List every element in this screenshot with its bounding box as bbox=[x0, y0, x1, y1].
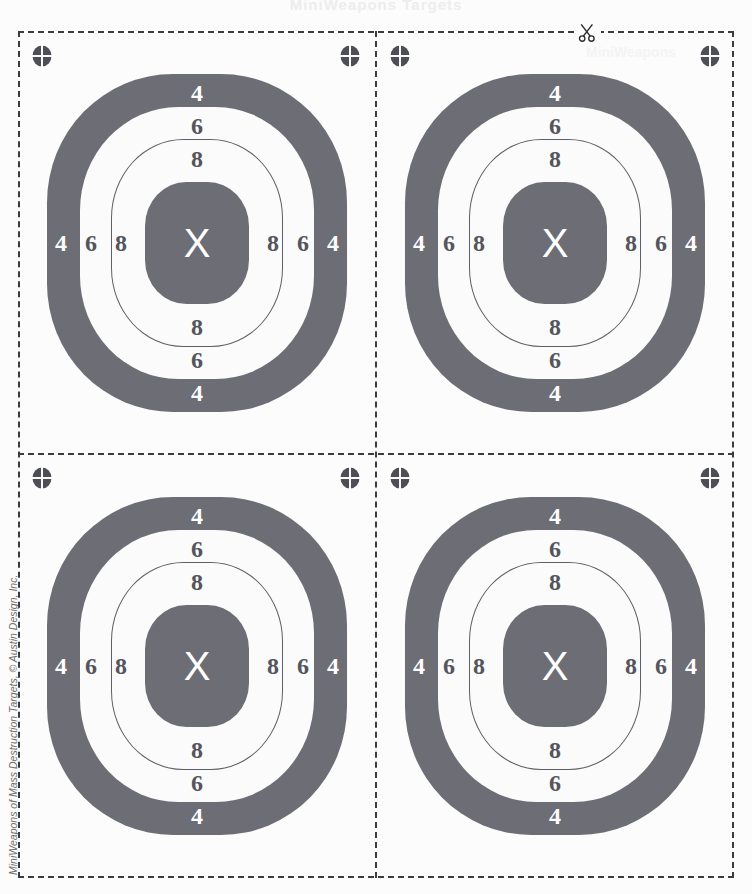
page-title: MiniWeapons Targets bbox=[0, 0, 752, 13]
score-label-top-6: 6 bbox=[186, 114, 208, 138]
target-center-label: X bbox=[184, 646, 211, 686]
score-label-top-8: 8 bbox=[186, 147, 208, 171]
score-label-top-8: 8 bbox=[544, 570, 566, 594]
target-center-label: X bbox=[542, 223, 569, 263]
score-label-top-6: 6 bbox=[544, 537, 566, 561]
score-label-right-6: 6 bbox=[650, 231, 672, 255]
score-label-bottom-6: 6 bbox=[186, 348, 208, 372]
target-center-label: X bbox=[542, 646, 569, 686]
score-label-bottom-8: 8 bbox=[544, 738, 566, 762]
score-label-top-4: 4 bbox=[544, 504, 566, 528]
score-label-top-6: 6 bbox=[186, 537, 208, 561]
score-label-left-4: 4 bbox=[50, 231, 72, 255]
score-label-right-4: 4 bbox=[680, 654, 702, 678]
bullseye-target[interactable]: X 4 6 8 8 6 4 4 6 8 8 6 4 bbox=[405, 74, 705, 412]
target-panel-top-right: X 4 6 8 8 6 4 4 6 8 8 6 4 bbox=[376, 31, 734, 454]
score-label-right-8: 8 bbox=[262, 231, 284, 255]
score-label-right-8: 8 bbox=[620, 654, 642, 678]
target-panel-bottom-right: X 4 6 8 8 6 4 4 6 8 8 6 4 bbox=[376, 454, 734, 877]
score-label-left-6: 6 bbox=[80, 231, 102, 255]
score-label-left-6: 6 bbox=[80, 654, 102, 678]
score-label-bottom-4: 4 bbox=[544, 381, 566, 405]
score-label-bottom-8: 8 bbox=[186, 315, 208, 339]
target-panel-top-left: X 4 6 8 8 6 4 4 6 8 8 6 4 bbox=[18, 31, 376, 454]
score-label-bottom-4: 4 bbox=[544, 804, 566, 828]
score-label-bottom-8: 8 bbox=[186, 738, 208, 762]
bullseye-target[interactable]: X 4 6 8 8 6 4 4 6 8 8 6 4 bbox=[47, 497, 347, 835]
score-label-bottom-6: 6 bbox=[186, 771, 208, 795]
score-label-top-8: 8 bbox=[544, 147, 566, 171]
score-label-left-4: 4 bbox=[408, 231, 430, 255]
score-label-left-8: 8 bbox=[110, 231, 132, 255]
score-label-top-4: 4 bbox=[186, 81, 208, 105]
score-label-right-6: 6 bbox=[650, 654, 672, 678]
score-label-bottom-6: 6 bbox=[544, 771, 566, 795]
score-label-left-6: 6 bbox=[438, 654, 460, 678]
score-label-right-4: 4 bbox=[322, 231, 344, 255]
score-label-left-8: 8 bbox=[468, 654, 490, 678]
score-label-right-4: 4 bbox=[680, 231, 702, 255]
score-label-left-8: 8 bbox=[110, 654, 132, 678]
score-label-left-8: 8 bbox=[468, 231, 490, 255]
score-label-left-6: 6 bbox=[438, 231, 460, 255]
score-label-right-8: 8 bbox=[620, 231, 642, 255]
score-label-bottom-8: 8 bbox=[544, 315, 566, 339]
score-label-bottom-6: 6 bbox=[544, 348, 566, 372]
score-label-top-8: 8 bbox=[186, 570, 208, 594]
score-label-left-4: 4 bbox=[408, 654, 430, 678]
target-center-label: X bbox=[184, 223, 211, 263]
bullseye-target[interactable]: X 4 6 8 8 6 4 4 6 8 8 6 4 bbox=[405, 497, 705, 835]
score-label-right-8: 8 bbox=[262, 654, 284, 678]
score-label-right-4: 4 bbox=[322, 654, 344, 678]
score-label-top-4: 4 bbox=[186, 504, 208, 528]
score-label-bottom-4: 4 bbox=[186, 804, 208, 828]
score-label-right-6: 6 bbox=[292, 654, 314, 678]
target-panel-bottom-left: X 4 6 8 8 6 4 4 6 8 8 6 4 bbox=[18, 454, 376, 877]
bullseye-target[interactable]: X 4 6 8 8 6 4 4 6 8 8 6 4 bbox=[47, 74, 347, 412]
score-label-right-6: 6 bbox=[292, 231, 314, 255]
score-label-left-4: 4 bbox=[50, 654, 72, 678]
score-label-top-4: 4 bbox=[544, 81, 566, 105]
score-label-bottom-4: 4 bbox=[186, 381, 208, 405]
score-label-top-6: 6 bbox=[544, 114, 566, 138]
